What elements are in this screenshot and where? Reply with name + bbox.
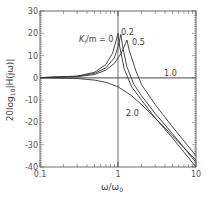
- frequency-response-chart: 3020100-10-20-30-40 0.1110 20log10|H(jω)…: [0, 0, 207, 199]
- annotation-k0: Kf/m = 0: [79, 35, 113, 45]
- x-tick-label: 10: [191, 170, 201, 179]
- x-tick-labels: 0.1110: [34, 170, 201, 179]
- y-tick-label: 20: [28, 29, 38, 38]
- y-tick-label: 10: [28, 52, 38, 61]
- y-tick-label: 30: [28, 7, 38, 16]
- annotation-k02: 0.2: [121, 28, 134, 37]
- x-axis-label: ω/ω0: [101, 182, 123, 193]
- y-tick-label: -20: [25, 118, 38, 127]
- y-tick-label: -10: [25, 96, 38, 105]
- y-tick-labels: 3020100-10-20-30-40: [25, 7, 38, 172]
- y-tick-label: -30: [25, 141, 38, 150]
- annotation-k20: 2.0: [126, 109, 139, 118]
- annotation-k10: 1.0: [164, 69, 177, 78]
- annotation-k05: 0.5: [132, 38, 145, 47]
- y-axis-label: 20log10|H(jω)|: [5, 59, 16, 122]
- x-tick-label: 1: [115, 170, 120, 179]
- y-tick-label: 0: [33, 74, 38, 83]
- x-tick-label: 0.1: [34, 170, 47, 179]
